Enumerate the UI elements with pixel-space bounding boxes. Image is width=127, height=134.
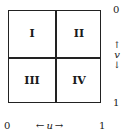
u-variable-label: u bbox=[46, 120, 52, 131]
quadrant-iii-label: III bbox=[9, 75, 55, 87]
quadrant-ii-label: II bbox=[56, 28, 102, 40]
v-axis-top-label: 0 bbox=[113, 4, 119, 15]
horizontal-divider bbox=[9, 57, 100, 59]
unit-square: I II III IV bbox=[8, 10, 101, 103]
arrow-left-icon: ← bbox=[36, 120, 44, 131]
arrow-down-icon: ↓ bbox=[113, 60, 121, 70]
v-axis-indicator: ↑ v ↓ bbox=[113, 40, 121, 70]
u-axis-indicator: ←u→ bbox=[36, 120, 63, 131]
u-axis-left-label: 0 bbox=[4, 120, 10, 131]
arrow-right-icon: → bbox=[55, 120, 63, 131]
v-variable-label: v bbox=[113, 50, 121, 60]
u-axis-right-label: 1 bbox=[99, 120, 105, 131]
quadrant-iv-label: IV bbox=[56, 75, 102, 87]
v-axis-bottom-label: 1 bbox=[113, 97, 119, 108]
quadrant-i-label: I bbox=[9, 28, 55, 40]
